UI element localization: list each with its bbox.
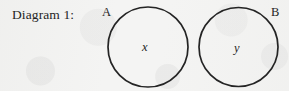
set-a-label: A bbox=[102, 6, 111, 19]
set-a-circle bbox=[108, 7, 188, 87]
set-b-label: B bbox=[271, 6, 279, 19]
diagram-figure: Diagram 1: A B x y bbox=[0, 0, 289, 91]
set-b-member-y: y bbox=[234, 42, 240, 55]
set-a-member-x: x bbox=[142, 41, 148, 54]
